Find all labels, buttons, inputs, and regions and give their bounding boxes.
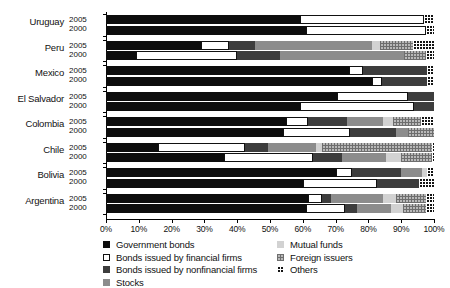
bar-segment-nonfin: [377, 179, 420, 188]
bar-segment-gov: [106, 66, 349, 75]
stacked-bar-row: [106, 51, 434, 60]
bar-segment-finbond: [336, 168, 352, 177]
bar-segment-foreign: [401, 153, 432, 162]
bar-segment-nonfin: [363, 66, 427, 75]
bar-segment-finbond: [136, 51, 238, 60]
x-axis-tick: [434, 219, 435, 223]
bar-segment-gov: [106, 92, 337, 101]
x-axis-tick-label: 60%: [286, 224, 320, 234]
bar-segment-gov: [106, 102, 300, 111]
legend-column-right: Mutual fundsForeign issuersOthers: [277, 239, 353, 277]
bar-segment-others: [426, 194, 434, 203]
bar-segment-stocks: [280, 51, 405, 60]
x-axis-tick-label: 30%: [187, 224, 221, 234]
bar-segment-gov: [106, 77, 372, 86]
legend-label: Others: [290, 264, 318, 275]
legend-label: Bonds issued by nonfinancial firms: [116, 264, 257, 275]
bar-segment-finbond: [303, 179, 377, 188]
stacked-bar-row: [106, 102, 434, 111]
y-axis-country-label: Chile: [43, 144, 64, 155]
bar-segment-finbond: [349, 66, 364, 75]
bar-segment-gov: [106, 15, 300, 24]
bar-segment-others: [419, 179, 434, 188]
x-axis-tick-label: 10%: [122, 224, 156, 234]
legend-item: Bonds issued by financial firms: [103, 252, 257, 263]
bar-segment-finbond: [372, 77, 382, 86]
bar-segment-finbond: [224, 153, 313, 162]
x-axis-tick-label: 20%: [155, 224, 189, 234]
bar-segment-stocks: [268, 143, 316, 152]
y-axis-year-label: 2000: [69, 101, 87, 110]
y-axis-year-labels: 20052000: [69, 117, 87, 135]
bar-segment-gov: [106, 51, 136, 60]
bar-segment-foreign: [403, 204, 426, 213]
legend-item: Stocks: [103, 277, 257, 288]
bar-segment-mutual: [383, 117, 393, 126]
bar-segment-mutual: [391, 204, 402, 213]
legend-label: Stocks: [116, 277, 144, 288]
bar-segment-others: [432, 153, 434, 162]
stacked-bar-row: [106, 143, 434, 152]
bar-segment-gov: [106, 153, 224, 162]
y-axis-year-labels: 20052000: [69, 168, 87, 186]
legend-item: Bonds issued by nonfinancial firms: [103, 264, 257, 275]
y-axis-year-label: 2000: [69, 203, 87, 212]
legend-swatch-finbond: [103, 254, 110, 261]
x-axis-tick: [237, 219, 238, 223]
y-axis-year-labels: 20052000: [69, 194, 87, 212]
y-axis-year-label: 2005: [69, 194, 87, 203]
bar-segment-nonfin: [414, 102, 434, 111]
stacked-bar-row: [106, 128, 434, 137]
bar-segment-others: [427, 168, 434, 177]
y-axis-year-labels: 20052000: [69, 92, 87, 110]
x-axis-tick-label: 100%: [417, 224, 450, 234]
stacked-bar-row: [106, 179, 434, 188]
legend-item: Foreign issuers: [277, 252, 353, 263]
bar-segment-finbond: [286, 117, 307, 126]
bar-segment-nonfin: [229, 41, 255, 50]
bar-segment-stocks: [255, 41, 371, 50]
y-axis-country-label: Mexico: [35, 67, 64, 78]
legend-item: Mutual funds: [277, 239, 353, 250]
bar-segment-gov: [106, 168, 336, 177]
x-axis-tick: [336, 219, 337, 223]
bar-segment-others: [426, 204, 434, 213]
x-axis-tick: [270, 219, 271, 223]
legend-label: Government bonds: [116, 239, 194, 250]
stacked-bar-row: [106, 194, 434, 203]
bar-segment-nonfin: [352, 168, 401, 177]
y-axis-year-labels: 20052000: [69, 15, 87, 33]
y-axis-year-label: 2005: [69, 15, 87, 24]
legend-label: Foreign issuers: [290, 252, 353, 263]
y-axis-country-label: Uruguay: [29, 16, 64, 27]
stacked-bar-row: [106, 117, 434, 126]
legend-swatch-foreign: [277, 254, 284, 261]
y-axis-year-label: 2005: [69, 66, 87, 75]
y-axis-year-labels: 20052000: [69, 41, 87, 59]
stacked-bar-row: [106, 41, 434, 50]
y-axis-country-label: Colombia: [25, 118, 64, 129]
x-axis-tick-label: 80%: [351, 224, 385, 234]
x-axis-tick-label: 0%: [89, 224, 123, 234]
bar-segment-others: [427, 66, 434, 75]
bar-segment-mutual: [383, 194, 396, 203]
y-axis-year-label: 2000: [69, 126, 87, 135]
bar-segment-nonfin: [345, 204, 356, 213]
legend-label: Bonds issued by financial firms: [116, 252, 242, 263]
y-axis-year-label: 2005: [69, 143, 87, 152]
y-axis-year-labels: 20052000: [69, 143, 87, 161]
stacked-bar-row: [106, 15, 434, 24]
bar-segment-stocks: [401, 168, 422, 177]
y-axis-country-label: Bolivia: [37, 169, 64, 180]
bar-segment-nonfin: [350, 128, 396, 137]
y-axis-year-label: 2005: [69, 92, 87, 101]
legend-column-left: Government bondsBonds issued by financia…: [103, 239, 257, 288]
bar-segment-stocks: [342, 153, 386, 162]
plot-area: [106, 12, 434, 219]
bar-segment-stocks: [396, 128, 407, 137]
bar-segment-foreign: [404, 51, 425, 60]
bar-segment-nonfin: [408, 92, 434, 101]
stacked-bar-row: [106, 26, 434, 35]
y-axis-year-label: 2000: [69, 75, 87, 84]
x-axis-tick-label: 90%: [384, 224, 418, 234]
